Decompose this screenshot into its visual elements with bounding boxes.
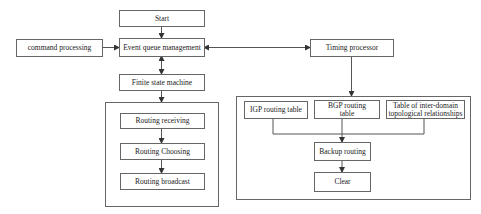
routing-receiving-node: Routing receiving (120, 113, 205, 129)
event-queue-management-node: Event queue management (119, 38, 205, 57)
command-processing-node: command processing (16, 39, 103, 57)
timing-processor-node: Timing processor (310, 39, 394, 57)
backup-routing-node: Backup routing (314, 142, 371, 161)
finite-state-machine-node: Finite state machine (119, 74, 205, 91)
routing-choosing-node: Routing Choosing (120, 143, 205, 160)
routing-broadcast-node: Routing broadcast (120, 173, 205, 190)
bgp-routing-table-node: BGP routing table (314, 100, 380, 119)
igp-routing-table-node: IGP routing table (244, 101, 308, 119)
inter-domain-topology-table-node: Table of inter-domain topological relati… (386, 100, 465, 119)
clear-node: Clear (314, 172, 371, 192)
start-node: Start (119, 10, 205, 27)
